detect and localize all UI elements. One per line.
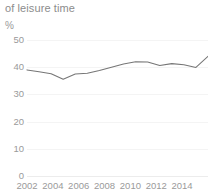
y-tick-label-40: 40 xyxy=(2,62,24,72)
gridline-0 xyxy=(27,176,208,177)
series-polyline xyxy=(27,56,208,79)
x-tick-label-2010: 2010 xyxy=(120,180,141,191)
x-tick-label-2012: 2012 xyxy=(146,180,167,191)
y-axis-labels: 50403020100 xyxy=(0,40,24,176)
x-axis-labels: 2002200420062008201020122014 xyxy=(0,180,208,192)
x-tick-label-2004: 2004 xyxy=(42,180,63,191)
y-axis-unit-label: % xyxy=(5,20,14,31)
y-tick-label-50: 50 xyxy=(2,35,24,45)
series-line-leisure-time xyxy=(27,40,208,176)
x-tick-label-2006: 2006 xyxy=(68,180,89,191)
y-tick-label-30: 30 xyxy=(2,89,24,99)
plot-area xyxy=(27,40,208,176)
chart-title: of leisure time xyxy=(5,2,75,15)
y-tick-label-10: 10 xyxy=(2,144,24,154)
line-chart: of leisure time % 50403020100 2002200420… xyxy=(0,0,208,192)
x-tick-label-2002: 2002 xyxy=(16,180,37,191)
x-tick-label-2014: 2014 xyxy=(172,180,193,191)
x-tick-label-2008: 2008 xyxy=(94,180,115,191)
y-tick-label-20: 20 xyxy=(2,117,24,127)
